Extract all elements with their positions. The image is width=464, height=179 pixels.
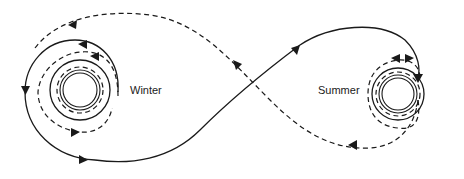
arrow-icon — [21, 86, 30, 95]
winter-inner-ring-1 — [63, 73, 97, 107]
winter-label: Winter — [130, 84, 162, 96]
winter-mid-ring — [50, 60, 110, 120]
summer-inner-ring-1 — [382, 78, 414, 110]
winter-inner-ring-2 — [60, 70, 100, 110]
flow-arrows — [21, 20, 423, 164]
arrow-icon — [233, 60, 242, 70]
summer-label: Summer — [318, 84, 360, 96]
summer-spiral — [368, 60, 424, 129]
summer-inner-dashed-ring — [376, 72, 420, 116]
arrow-icon — [348, 140, 357, 150]
arrow-icon — [71, 128, 80, 137]
arrow-icon — [78, 40, 87, 49]
dashed-crossing-curve — [35, 13, 418, 148]
figure-eight-diagram: Winter Summer — [0, 0, 464, 179]
winter-inner-dashed-ring — [57, 67, 103, 113]
arrow-icon — [79, 155, 88, 164]
summer-inner-ring-2 — [379, 75, 417, 113]
winter-spiral — [25, 40, 118, 160]
